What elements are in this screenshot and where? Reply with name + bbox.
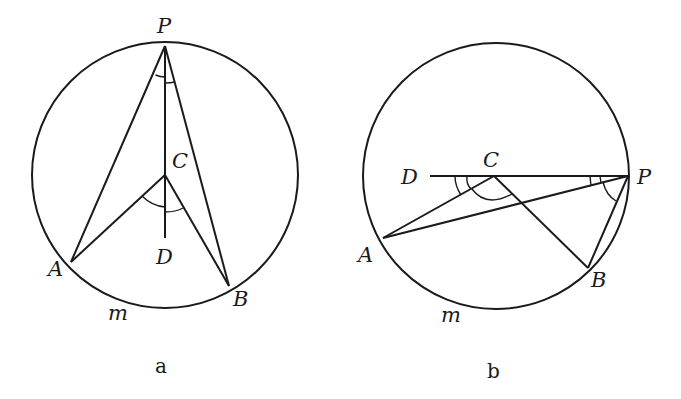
label-P-b: P <box>636 165 652 189</box>
label-C-a: C <box>172 149 188 173</box>
angle-mark-ACD <box>142 196 165 207</box>
label-B-b: B <box>590 268 606 292</box>
angle-mark-DCB <box>165 208 183 212</box>
angle-mark-DCA-inner <box>467 176 471 189</box>
label-B-a: B <box>232 287 248 311</box>
angle-mark-DCA-outer <box>455 176 461 195</box>
angle-mark-CPB <box>165 82 175 83</box>
caption-a: a <box>155 354 167 378</box>
arc-label-m-b: m <box>441 303 461 327</box>
arc-label-m-a: m <box>108 301 128 325</box>
figure-b: C D P A B m b <box>356 43 652 383</box>
label-D-b: D <box>400 165 418 189</box>
figure-a: P C D A B m a <box>32 14 298 378</box>
inscribed-angle-diagram: P C D A B m a C D P A B m b <box>0 0 681 399</box>
segment-CA-a <box>71 175 165 262</box>
segment-CB-a <box>165 175 229 286</box>
angle-mark-APB <box>603 182 616 201</box>
label-D-a: D <box>155 245 173 269</box>
angle-mark-CPA-2 <box>600 176 601 183</box>
segment-CA-b <box>383 176 494 238</box>
angle-mark-APC <box>156 75 166 77</box>
angle-mark-ACB <box>472 189 512 200</box>
segment-PB-b <box>588 176 628 268</box>
caption-b: b <box>487 359 500 383</box>
label-A-b: A <box>356 243 373 267</box>
label-P-a: P <box>156 14 172 38</box>
label-C-b: C <box>483 148 499 172</box>
angle-mark-CPA-1 <box>590 176 591 186</box>
segment-PA-a <box>71 46 165 262</box>
label-A-a: A <box>46 257 63 281</box>
